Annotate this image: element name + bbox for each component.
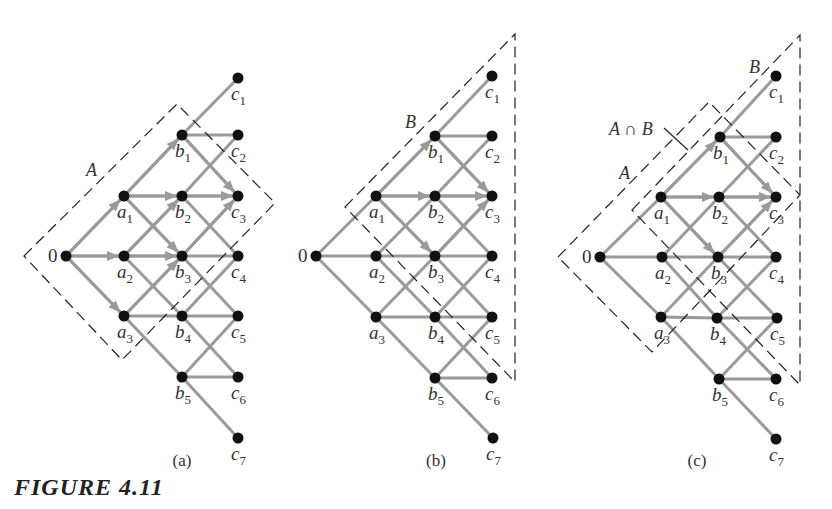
region-label-B: B xyxy=(749,57,760,77)
node-c4 xyxy=(487,251,498,262)
node-label-c5: c5 xyxy=(485,322,500,347)
arrow-0-a1 xyxy=(66,200,120,256)
edge-0-a3 xyxy=(600,257,661,317)
node-label-c2: c2 xyxy=(485,141,500,166)
node-b2 xyxy=(714,192,725,203)
node-b2 xyxy=(177,191,188,202)
panel-b: B0a1a2a3b1b2b3b4b5c1c2c3c4c5c6c7(b) xyxy=(298,34,515,470)
node-label-c6: c6 xyxy=(231,382,246,407)
node-b5 xyxy=(714,374,725,385)
arrow-b3-c3 xyxy=(435,200,488,256)
node-b4 xyxy=(177,311,188,322)
edge-0-a1 xyxy=(600,197,661,257)
node-c1 xyxy=(771,71,782,82)
node-label-c4: c4 xyxy=(231,261,246,286)
node-c4 xyxy=(771,252,782,263)
node-b2 xyxy=(430,191,441,202)
node-c3 xyxy=(771,192,782,203)
region-label-A: A xyxy=(618,163,631,183)
node-label-c5: c5 xyxy=(770,323,785,348)
node-a1 xyxy=(371,191,382,202)
arrow-a2-b2 xyxy=(124,200,178,256)
node-b5 xyxy=(177,372,188,383)
node-a3 xyxy=(119,311,130,322)
node-c6 xyxy=(487,373,498,384)
node-a3 xyxy=(371,312,382,323)
node-a3 xyxy=(656,312,667,323)
node-label-c1: c1 xyxy=(231,83,246,108)
figure-title: FIGURE 4.11 xyxy=(14,474,164,501)
node-a1 xyxy=(119,191,130,202)
node-c7 xyxy=(771,434,782,445)
node-label-c6: c6 xyxy=(769,384,784,409)
edge-b1-c1 xyxy=(182,78,238,135)
node-b1 xyxy=(715,132,726,143)
node-b3 xyxy=(430,251,441,262)
panel-caption-a: (a) xyxy=(173,451,192,470)
node-c7 xyxy=(233,433,244,444)
panel-caption-b: (b) xyxy=(426,451,446,470)
node-a1 xyxy=(656,192,667,203)
node-0 xyxy=(595,252,606,263)
region-label-B: B xyxy=(405,112,416,132)
node-label-c3: c3 xyxy=(485,201,500,226)
node-c2 xyxy=(771,132,782,143)
node-c4 xyxy=(233,251,244,262)
node-b3 xyxy=(177,251,188,262)
edge-0-a1 xyxy=(316,196,376,256)
intersection-leader xyxy=(664,128,688,150)
node-label-0: 0 xyxy=(48,245,58,266)
arrow-b3-c3 xyxy=(718,201,772,257)
node-label-c2: c2 xyxy=(769,142,784,167)
node-c5 xyxy=(233,311,244,322)
node-b1 xyxy=(177,130,188,141)
edge-a3-b5 xyxy=(376,317,435,378)
node-c3 xyxy=(233,191,244,202)
edge-b5-c7 xyxy=(182,377,238,438)
node-b4 xyxy=(430,312,441,323)
node-a2 xyxy=(119,251,130,262)
edge-a3-b5 xyxy=(124,316,182,377)
node-b5 xyxy=(430,373,441,384)
node-c2 xyxy=(233,130,244,141)
node-label-c6: c6 xyxy=(485,383,500,408)
edge-b1-c1 xyxy=(720,76,776,137)
node-c5 xyxy=(772,313,783,324)
node-label-c7: c7 xyxy=(486,443,501,468)
arrow-a3-b3 xyxy=(124,260,178,316)
node-label-c1: c1 xyxy=(485,81,500,106)
node-label-c1: c1 xyxy=(769,81,784,106)
node-0 xyxy=(61,251,72,262)
node-c1 xyxy=(233,73,244,84)
arrow-a1-b1 xyxy=(661,141,716,197)
node-b4 xyxy=(712,313,723,324)
node-b1 xyxy=(430,131,441,142)
panel-caption-c: (c) xyxy=(688,451,707,470)
node-label-c4: c4 xyxy=(769,262,784,287)
node-a2 xyxy=(657,252,668,263)
node-c1 xyxy=(487,71,498,82)
arrow-b3-c3 xyxy=(182,200,234,256)
arrow-a1-b1 xyxy=(124,139,178,196)
node-c7 xyxy=(488,433,499,444)
edge-0-a3 xyxy=(316,256,376,317)
arrow-a1-b1 xyxy=(376,140,431,196)
node-c6 xyxy=(233,372,244,383)
node-label-0: 0 xyxy=(298,245,308,266)
figure-4-11: A0a1a2a3b1b2b3b4b5c1c2c3c4c5c6c7(a) B0a1… xyxy=(0,0,832,509)
node-label-c4: c4 xyxy=(485,261,500,286)
node-label-c7: c7 xyxy=(769,444,784,469)
edge-a3-b4 xyxy=(661,317,717,318)
node-label-c3: c3 xyxy=(769,202,784,227)
node-a2 xyxy=(371,251,382,262)
node-b3 xyxy=(713,252,724,263)
edge-b5-c7 xyxy=(719,379,776,439)
region-A xyxy=(558,102,800,352)
panel-a: A0a1a2a3b1b2b3b4b5c1c2c3c4c5c6c7(a) xyxy=(24,73,275,471)
panel-c: ABA ∩ B0a1a2a3b1b2b3b4b5c1c2c3c4c5c6c7(c… xyxy=(558,35,800,470)
node-label-c5: c5 xyxy=(231,321,246,346)
node-c3 xyxy=(487,191,498,202)
node-c6 xyxy=(771,374,782,385)
region-label-A: A xyxy=(85,160,98,180)
node-label-c3: c3 xyxy=(231,201,246,226)
